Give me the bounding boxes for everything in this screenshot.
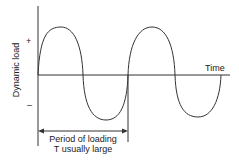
period-label-line1: Period of loading (49, 134, 117, 144)
period-label: Period of loading T usually large (49, 134, 117, 154)
arrow-head-right-icon (122, 129, 128, 134)
period-label-line2: T usually large (49, 144, 117, 154)
diagram-graphics (0, 0, 239, 162)
x-axis-label: Time (205, 63, 225, 73)
dynamic-load-diagram: Dynamic load + – Time Period of loading … (0, 0, 239, 162)
negative-sign: – (27, 100, 32, 110)
y-axis-label: Dynamic load (11, 43, 21, 98)
arrow-head-left-icon (38, 129, 44, 134)
sine-waveform (38, 27, 221, 120)
positive-sign: + (26, 36, 31, 46)
